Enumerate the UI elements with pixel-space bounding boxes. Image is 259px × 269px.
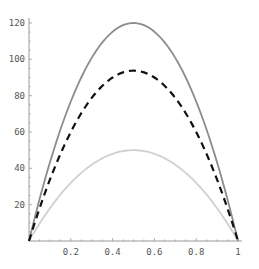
x-tick-label: 0.8 — [188, 247, 204, 257]
y-tick-label: 80 — [14, 91, 25, 101]
y-tick-label: 40 — [14, 163, 25, 173]
x-tick-label: 0.2 — [63, 247, 79, 257]
y-tick-label: 20 — [14, 200, 25, 210]
x-tick-label: 0.6 — [146, 247, 162, 257]
series-middle-dashed — [29, 71, 238, 241]
series-lower — [29, 150, 238, 241]
curves — [29, 23, 238, 241]
tick-labels: 0.20.40.60.8120406080100120 — [9, 18, 241, 257]
series-upper — [29, 23, 238, 241]
x-tick-label: 0.4 — [104, 247, 120, 257]
line-chart: 0.20.40.60.8120406080100120 — [0, 0, 259, 269]
y-tick-label: 100 — [9, 54, 25, 64]
y-tick-label: 60 — [14, 127, 25, 137]
x-tick-label: 1 — [235, 247, 240, 257]
y-tick-label: 120 — [9, 18, 25, 28]
